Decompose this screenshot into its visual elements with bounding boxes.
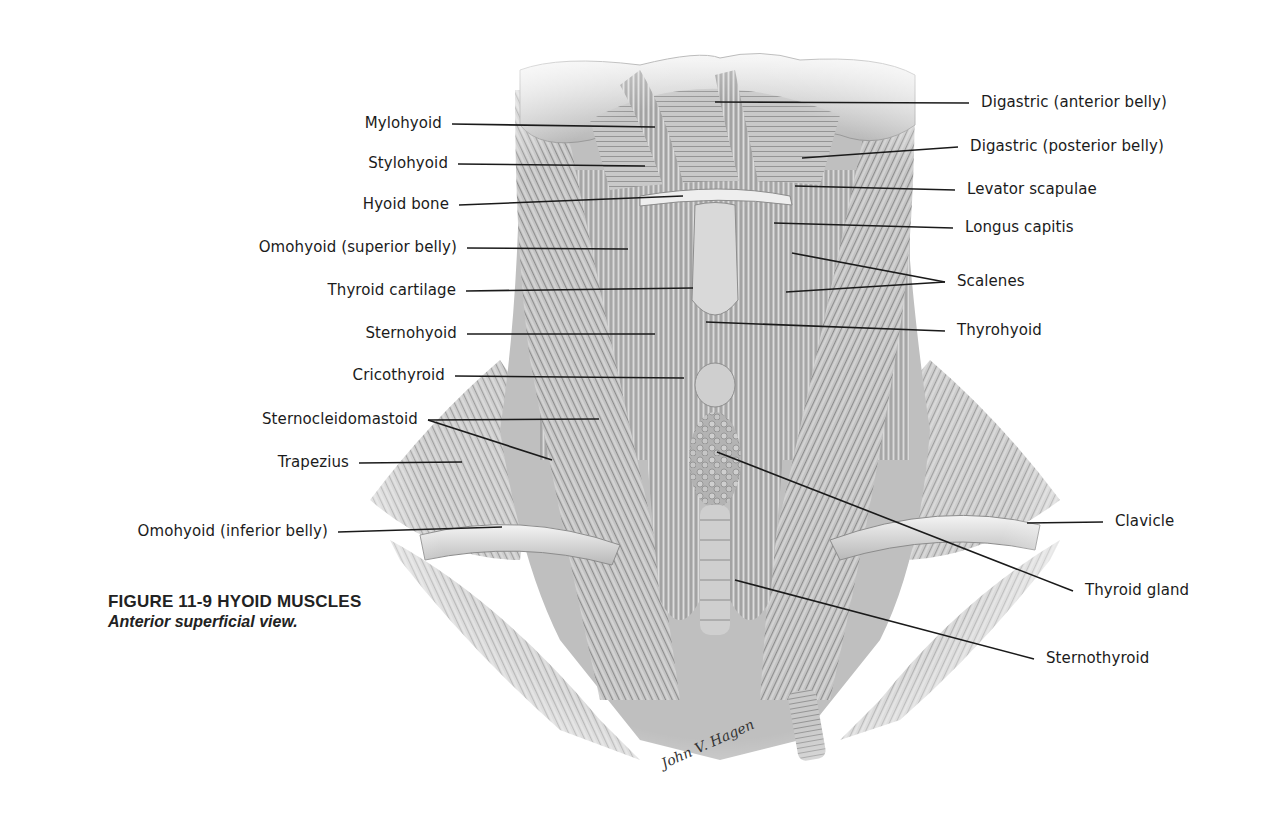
label-hyoid-bone: Hyoid bone <box>363 195 449 213</box>
caption-title: FIGURE 11-9 HYOID MUSCLES <box>108 592 361 612</box>
leader-line <box>428 419 599 420</box>
label-cricothyroid: Cricothyroid <box>353 366 445 384</box>
label-thyroid-cartilage: Thyroid cartilage <box>328 281 456 299</box>
leader-line <box>715 102 969 103</box>
label-thyroid-gland: Thyroid gland <box>1085 581 1189 599</box>
figure-caption: FIGURE 11-9 HYOID MUSCLES Anterior super… <box>108 592 361 631</box>
label-sternocleidomastoid: Sternocleidomastoid <box>262 410 418 428</box>
leader-line <box>1027 522 1103 523</box>
label-omohyoid-inferior: Omohyoid (inferior belly) <box>138 522 328 540</box>
label-trapezius: Trapezius <box>278 453 349 471</box>
label-sternothyroid: Sternothyroid <box>1046 649 1150 667</box>
leader-line <box>359 462 462 463</box>
label-omohyoid-superior: Omohyoid (superior belly) <box>259 238 457 256</box>
label-digastric-posterior: Digastric (posterior belly) <box>970 137 1164 155</box>
caption-subtitle: Anterior superficial view. <box>108 613 361 631</box>
label-longus-capitis: Longus capitis <box>965 218 1074 236</box>
label-thyrohyoid: Thyrohyoid <box>957 321 1042 339</box>
label-clavicle: Clavicle <box>1115 512 1174 530</box>
label-mylohyoid: Mylohyoid <box>365 114 442 132</box>
label-digastric-anterior: Digastric (anterior belly) <box>981 93 1167 111</box>
label-scalenes: Scalenes <box>957 272 1025 290</box>
neck-illustration <box>0 0 1288 833</box>
anatomy-figure: MylohyoidStylohyoidHyoid boneOmohyoid (s… <box>0 0 1288 833</box>
label-sternohyoid: Sternohyoid <box>365 324 457 342</box>
leader-line <box>467 248 628 249</box>
label-stylohyoid: Stylohyoid <box>368 154 448 172</box>
label-levator-scapulae: Levator scapulae <box>967 180 1097 198</box>
